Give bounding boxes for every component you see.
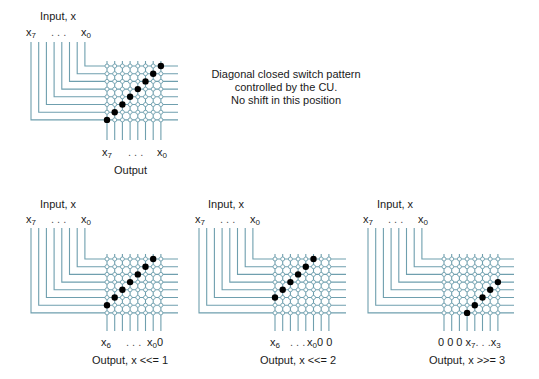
open-switch: [105, 79, 109, 83]
open-switch: [457, 280, 461, 284]
open-switch: [473, 257, 477, 261]
closed-switch: [142, 264, 148, 270]
open-switch: [312, 280, 316, 284]
open-switch: [327, 311, 331, 315]
input-lsb-label: x0: [418, 213, 428, 229]
open-switch: [288, 296, 292, 300]
open-switch: [473, 272, 477, 276]
open-switch: [442, 265, 446, 269]
closed-switch: [119, 287, 125, 293]
open-switch: [151, 103, 155, 107]
open-switch: [296, 288, 300, 292]
open-switch: [113, 87, 117, 91]
open-switch: [304, 280, 308, 284]
open-switch: [473, 311, 477, 315]
input-wire: [383, 228, 514, 298]
closed-switch: [112, 294, 118, 300]
open-switch: [151, 110, 155, 114]
input-label: Input, x: [377, 198, 413, 210]
open-switch: [288, 311, 292, 315]
open-switch: [465, 272, 469, 276]
input-msb-label: x7: [195, 213, 205, 229]
open-switch: [312, 303, 316, 307]
open-switch: [281, 280, 285, 284]
open-switch: [128, 87, 132, 91]
closed-switch: [158, 63, 164, 69]
open-switch: [296, 296, 300, 300]
open-switch: [481, 257, 485, 261]
input-wire: [245, 228, 346, 267]
open-switch: [327, 296, 331, 300]
open-switch: [128, 265, 132, 269]
open-switch: [144, 296, 148, 300]
open-switch: [159, 110, 163, 114]
open-switch: [327, 303, 331, 307]
open-switch: [473, 296, 477, 300]
open-switch: [327, 288, 331, 292]
open-switch: [136, 265, 140, 269]
open-switch: [128, 72, 132, 76]
open-switch: [288, 257, 292, 261]
open-switch: [465, 296, 469, 300]
open-switch: [481, 280, 485, 284]
open-switch: [136, 118, 140, 122]
open-switch: [151, 303, 155, 307]
open-switch: [496, 265, 500, 269]
input-wire: [85, 228, 178, 259]
open-switch: [120, 265, 124, 269]
open-switch: [113, 95, 117, 99]
open-switch: [319, 288, 323, 292]
open-switch: [144, 103, 148, 107]
closed-switch: [495, 279, 501, 285]
open-switch: [273, 311, 277, 315]
output-lsb-label: x0: [157, 146, 167, 162]
open-switch: [159, 118, 163, 122]
open-switch: [488, 303, 492, 307]
open-switch: [128, 64, 132, 68]
open-switch: [120, 296, 124, 300]
open-switch: [136, 103, 140, 107]
open-switch: [488, 296, 492, 300]
open-switch: [113, 103, 117, 107]
input-ellipsis: . . .: [388, 213, 403, 225]
closed-switch: [112, 109, 118, 115]
closed-switch: [135, 86, 141, 92]
open-switch: [136, 95, 140, 99]
open-switch: [136, 64, 140, 68]
closed-switch: [135, 271, 141, 277]
open-switch: [450, 280, 454, 284]
open-switch: [113, 280, 117, 284]
open-switch: [151, 311, 155, 315]
open-switch: [120, 79, 124, 83]
open-switch: [128, 288, 132, 292]
output-msb-label: x6: [270, 336, 280, 352]
input-label: Input, x: [40, 198, 76, 210]
open-switch: [105, 288, 109, 292]
open-switch: [457, 311, 461, 315]
open-switch: [304, 296, 308, 300]
open-switch: [159, 311, 163, 315]
open-switch: [151, 280, 155, 284]
open-switch: [151, 79, 155, 83]
closed-switch: [295, 271, 301, 277]
closed-switch: [310, 256, 316, 262]
open-switch: [288, 265, 292, 269]
open-switch: [296, 265, 300, 269]
open-switch: [151, 272, 155, 276]
input-lsb-label: x0: [81, 213, 91, 229]
open-switch: [496, 311, 500, 315]
open-switch: [105, 265, 109, 269]
open-switch: [105, 64, 109, 68]
open-switch: [273, 280, 277, 284]
output-lsb-label: x00 0: [307, 336, 332, 352]
output-lsb-label: x00: [147, 336, 163, 352]
open-switch: [159, 79, 163, 83]
open-switch: [113, 257, 117, 261]
closed-switch: [464, 310, 470, 316]
closed-switch: [150, 256, 156, 262]
open-switch: [273, 257, 277, 261]
open-switch: [281, 303, 285, 307]
input-wire: [77, 42, 178, 74]
open-switch: [496, 257, 500, 261]
open-switch: [288, 288, 292, 292]
